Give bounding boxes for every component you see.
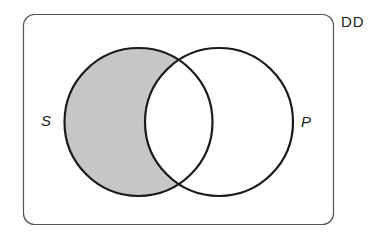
set-label-s: S <box>41 112 51 129</box>
universe-label: DD <box>341 13 365 30</box>
set-label-p: P <box>301 113 311 130</box>
venn-diagram <box>0 0 383 241</box>
